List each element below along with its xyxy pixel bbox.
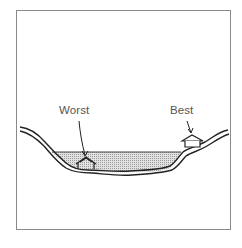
- valley-diagram: [0, 0, 242, 248]
- best-arrow-icon: [187, 121, 193, 133]
- label-best: Best: [170, 104, 193, 116]
- label-worst: Worst: [59, 104, 89, 116]
- worst-arrow-icon: [79, 121, 88, 156]
- floodwater-area: [52, 152, 181, 172]
- house-best-icon: [182, 135, 203, 147]
